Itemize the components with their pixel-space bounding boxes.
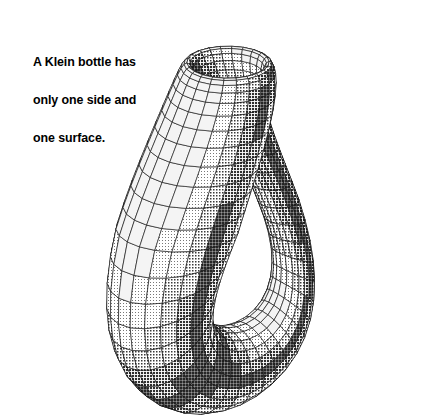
mesh-quad xyxy=(130,328,146,351)
mesh-quad xyxy=(293,273,299,292)
caption-line-3: one surface. xyxy=(33,128,199,147)
mesh-quad xyxy=(231,363,241,376)
mesh-quad xyxy=(304,278,309,298)
caption-line-1: A Klein bottle has xyxy=(33,52,199,71)
mesh-quad xyxy=(210,49,221,55)
mesh-quad xyxy=(145,303,163,329)
mesh-quad xyxy=(232,53,242,61)
mesh-quad xyxy=(222,53,233,60)
mesh-quad xyxy=(217,103,235,116)
mesh-quad xyxy=(236,84,249,93)
mesh-quad xyxy=(232,49,243,55)
mesh-quad xyxy=(208,84,223,93)
mesh-quad xyxy=(222,85,236,93)
caption-line-2: only one side and xyxy=(33,90,199,109)
illustration-page: A Klein bottle has only one side and one… xyxy=(0,0,441,417)
mesh-quad xyxy=(145,327,162,351)
mesh-quad xyxy=(240,362,252,376)
mesh-quad xyxy=(220,93,236,104)
mesh-quad xyxy=(130,303,145,329)
mesh-quad xyxy=(276,266,281,282)
mesh-quad xyxy=(223,80,236,85)
mesh-quad xyxy=(118,298,130,328)
caption-text: A Klein bottle has only one side and one… xyxy=(33,33,199,166)
mesh-quad xyxy=(299,276,305,295)
mesh-quad xyxy=(233,60,243,70)
mesh-quad xyxy=(206,92,222,104)
mesh-quad xyxy=(221,49,232,54)
mesh-quad xyxy=(287,271,293,289)
